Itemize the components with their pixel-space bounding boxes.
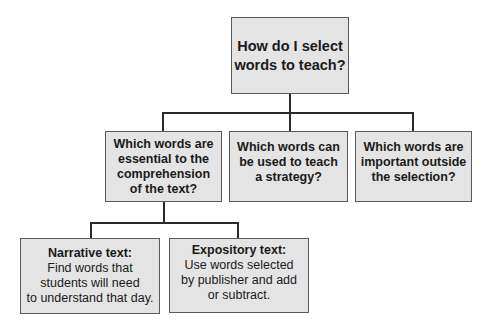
root-question-text: How do I select words to teach? bbox=[234, 37, 345, 75]
connector-level2-center-drop bbox=[289, 112, 291, 131]
narrative-text-body: Find words that students will need to un… bbox=[27, 261, 154, 306]
narrative-text-title: Narrative text: bbox=[27, 246, 154, 261]
expository-text-title: Expository text: bbox=[181, 243, 297, 258]
connector-level3-left-drop bbox=[90, 222, 92, 238]
outside-selection-text: Which words are important outside the se… bbox=[361, 140, 467, 185]
connector-level2-horizontal bbox=[162, 112, 414, 114]
expository-text-body: Use words selected by publisher and add … bbox=[181, 258, 297, 303]
root-question-box: How do I select words to teach? bbox=[231, 17, 349, 94]
expository-text-box: Expository text: Use words selected by p… bbox=[169, 238, 309, 313]
outside-selection-box: Which words are important outside the se… bbox=[355, 131, 472, 202]
strategy-words-text: Which words can be used to teach a strat… bbox=[237, 140, 340, 185]
connector-level3-horizontal bbox=[90, 222, 238, 224]
connector-essential-down bbox=[163, 201, 165, 222]
essential-words-box: Which words are essential to the compreh… bbox=[105, 131, 222, 202]
connector-root-down bbox=[289, 93, 291, 112]
narrative-text-box: Narrative text: Find words that students… bbox=[20, 238, 160, 314]
strategy-words-box: Which words can be used to teach a strat… bbox=[229, 131, 348, 202]
essential-words-text: Which words are essential to the compreh… bbox=[113, 137, 213, 197]
connector-level2-right-drop bbox=[412, 112, 414, 131]
connector-level3-right-drop bbox=[237, 222, 239, 238]
connector-level2-left-drop bbox=[162, 112, 164, 131]
